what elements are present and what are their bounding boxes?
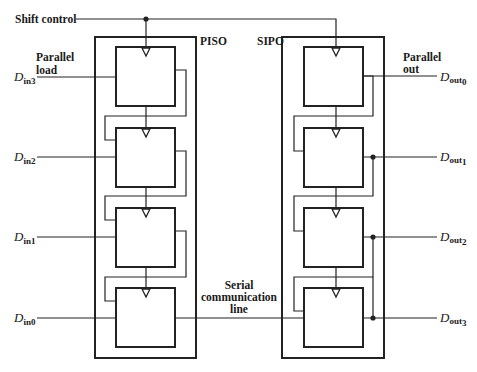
piso-flip-flop-3 [116, 47, 175, 106]
parallel-out-label-2: out [403, 63, 419, 75]
shift-control-label: Shift control [15, 13, 76, 25]
dout2-label: Dout2 [439, 229, 467, 247]
sipo-flip-flop-1 [304, 128, 363, 187]
parallel-load-label-1: Parallel [36, 51, 74, 63]
serial-label-2: communication [201, 291, 278, 303]
serial-label-1: Serial [225, 279, 254, 291]
dout3-junction [370, 315, 375, 320]
din0-label: Din0 [13, 310, 36, 327]
serial-label-3: line [230, 303, 248, 315]
parallel-out-label-1: Parallel [403, 51, 441, 63]
dout0-label: Dout0 [439, 69, 467, 87]
din1-label: Din1 [13, 229, 36, 246]
dout2-junction [370, 234, 375, 239]
sipo-flip-flop-3 [304, 288, 363, 347]
parallel-load-label-2: load [36, 64, 58, 76]
sipo-flip-flop-0 [304, 47, 363, 106]
shift-register-diagram: Shift control PISO Parallel load Din3 Di… [0, 0, 477, 372]
piso-flip-flop-1 [116, 208, 175, 267]
piso-flip-flop-2 [116, 128, 175, 187]
dout1-junction [370, 154, 375, 159]
piso-label: PISO [200, 35, 227, 47]
din3-label: Din3 [13, 69, 36, 86]
dout1-label: Dout1 [439, 149, 467, 167]
sipo-flip-flop-2 [304, 208, 363, 267]
din2-label: Din2 [13, 149, 36, 166]
dout3-label: Dout3 [439, 310, 467, 328]
sipo-label: SIPO [257, 35, 284, 47]
piso-flip-flop-0 [116, 288, 175, 347]
